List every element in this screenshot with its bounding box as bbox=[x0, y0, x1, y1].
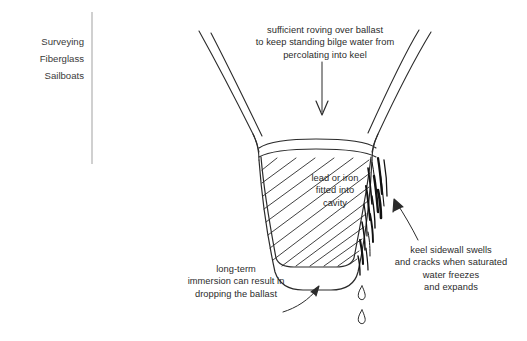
annotation-roving-over-ballast: sufficient roving over ballast to keep s… bbox=[232, 24, 418, 61]
header-line-2: Fiberglass bbox=[8, 50, 84, 67]
annotation-long-term-immersion: long-term immersion can result in droppi… bbox=[160, 263, 312, 300]
sidewall-crack-callout-arrow bbox=[393, 199, 418, 240]
roving-layer-top-line bbox=[259, 139, 376, 148]
diagram-page: Surveying Fiberglass Sailboats sufficien… bbox=[0, 0, 527, 341]
annotation-keel-sidewall-cracks: keel sidewall swells and cracks when sat… bbox=[378, 244, 524, 294]
roving-callout-arrow bbox=[316, 62, 328, 115]
header-line-3: Sailboats bbox=[8, 67, 84, 84]
header-block: Surveying Fiberglass Sailboats bbox=[8, 33, 84, 84]
header-line-1: Surveying bbox=[8, 33, 84, 50]
roving-layer-bottom-line bbox=[259, 149, 376, 157]
water-droplets bbox=[358, 286, 365, 324]
annotation-lead-or-iron: lead or iron fitted into cavity bbox=[283, 172, 387, 209]
